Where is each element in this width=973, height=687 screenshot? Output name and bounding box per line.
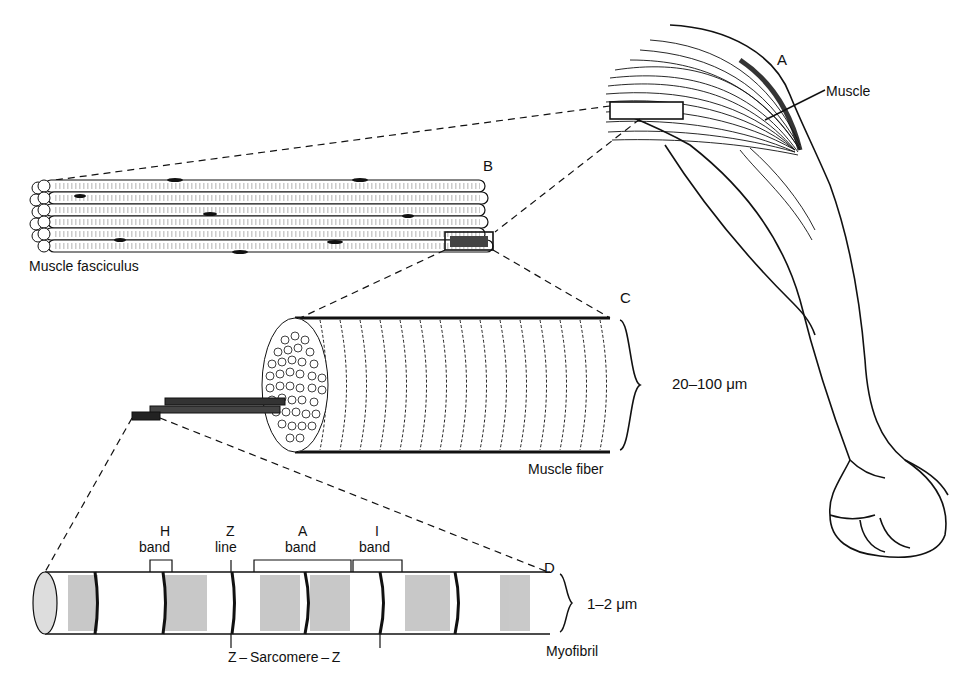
z-line-bottom: line [215,540,237,554]
myofibril-illustration [33,560,572,648]
fiber-size-bracket [620,320,640,450]
muscle-selection-box [610,102,683,119]
panel-a-letter: A [777,52,787,67]
fasciculus-illustration [30,178,493,254]
i-band-top: I [375,524,379,538]
myofibril-size-label: 1–2 μm [587,596,637,611]
z-line-top: Z [226,524,235,538]
panel-b-letter: B [483,158,493,173]
muscle-label: Muscle [826,84,870,98]
muscle-fiber-label: Muscle fiber [528,462,603,476]
panel-d-letter: D [544,560,555,575]
fiber-size-label: 20–100 μm [672,376,747,391]
sarcomere-label: Z – Sarcomere – Z [228,650,340,664]
i-band-bottom: band [359,540,390,554]
muscle-fiber-illustration [132,318,640,452]
fasciculus-label: Muscle fasciculus [29,259,139,273]
h-band-top: H [160,524,170,538]
myofibril-label: Myofibril [546,644,598,658]
a-band-bottom: band [285,540,316,554]
panel-c-letter: C [620,290,631,305]
a-band-top: A [298,524,307,538]
h-band-bottom: band [139,540,170,554]
zoom-lines-b-c [300,250,610,318]
diagram-canvas [0,0,973,687]
